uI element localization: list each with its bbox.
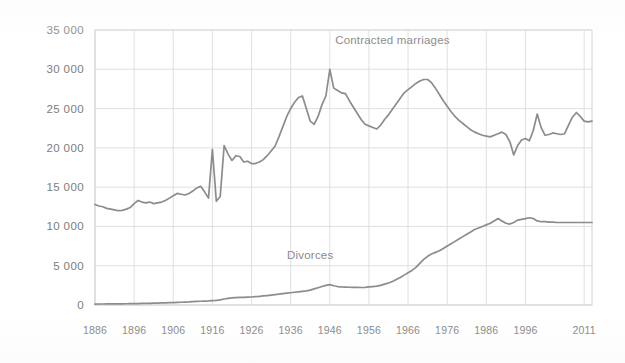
y-axis-tick-label: 0: [77, 299, 84, 311]
series-annotation-contracted-marriages: Contracted marriages: [335, 34, 450, 46]
x-axis-tick-label: 1896: [122, 324, 146, 336]
x-axis-tick-label: 1996: [513, 324, 537, 336]
series-line-divorces: [95, 218, 592, 304]
x-axis-tick-label: 1936: [279, 324, 303, 336]
y-axis-tick-label: 15 000: [46, 181, 84, 193]
y-axis-tick-label: 10 000: [46, 220, 84, 232]
x-axis-tick-labels: 1886189619061916192619361946195619661976…: [83, 324, 596, 336]
x-axis-tick-label: 1946: [318, 324, 342, 336]
x-axis-tick-label: 1956: [357, 324, 381, 336]
x-axis-tick-label: 1976: [435, 324, 459, 336]
y-axis-tick-label: 25 000: [46, 103, 84, 115]
x-axis-tick-label: 2011: [572, 324, 595, 336]
y-axis-tick-label: 20 000: [46, 142, 84, 154]
y-axis-tick-label: 30 000: [46, 63, 84, 75]
x-axis-tick-label: 1966: [396, 324, 420, 336]
x-axis-tick-label: 1886: [83, 324, 107, 336]
line-chart-canvas: 05 00010 00015 00020 00025 00030 00035 0…: [0, 0, 625, 363]
x-axis-tick-label: 1926: [239, 324, 263, 336]
series-line-contracted-marriages: [95, 69, 592, 210]
y-axis-tick-label: 5 000: [53, 260, 84, 272]
x-axis-tick-label: 1986: [474, 324, 498, 336]
series-lines: [95, 69, 592, 304]
y-axis-tick-label: 35 000: [46, 24, 84, 36]
x-axis-tick-label: 1916: [200, 324, 224, 336]
y-axis-tick-labels: 05 00010 00015 00020 00025 00030 00035 0…: [46, 24, 84, 311]
chart-figure: 05 00010 00015 00020 00025 00030 00035 0…: [0, 0, 625, 363]
plot-frame: [95, 30, 592, 305]
gridlines: [95, 30, 592, 305]
series-annotation-divorces: Divorces: [287, 249, 333, 261]
x-axis-tick-label: 1906: [161, 324, 185, 336]
